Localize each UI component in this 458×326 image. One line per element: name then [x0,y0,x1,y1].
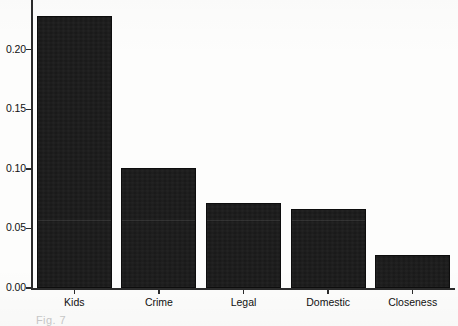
x-tick-label-closeness: Closeness [388,296,437,308]
x-tick-mark [412,289,414,294]
y-tick-label: 0.00 [0,281,26,293]
x-tick-mark [158,289,160,294]
figure-caption: Fig. 7 [36,314,66,326]
x-tick-label-domestic: Domestic [306,296,350,308]
x-tick-label-legal: Legal [231,296,257,308]
bar-chart-plot-area: 0.000.050.100.150.20 KidsCrimeLegalDomes… [0,0,458,326]
bar-domestic [291,209,366,288]
x-tick-mark [243,289,245,294]
x-tick-label-crime: Crime [145,296,173,308]
bar-legal [206,203,281,288]
bar-kids [37,16,112,288]
figure-container: 0.000.050.100.150.20 KidsCrimeLegalDomes… [0,0,458,326]
x-tick-label-kids: Kids [64,296,84,308]
y-tick-mark [26,109,31,111]
y-tick-mark [26,49,31,51]
y-tick-label: 0.15 [0,102,26,114]
y-axis-line [31,0,33,289]
y-tick-label: 0.20 [0,43,26,55]
x-tick-mark [74,289,76,294]
y-tick-mark [26,287,31,289]
bar-crime [121,168,196,288]
y-tick-label: 0.10 [0,162,26,174]
y-tick-label: 0.05 [0,221,26,233]
y-tick-mark [26,228,31,230]
x-tick-mark [327,289,329,294]
y-tick-mark [26,168,31,170]
bar-closeness [375,255,450,288]
